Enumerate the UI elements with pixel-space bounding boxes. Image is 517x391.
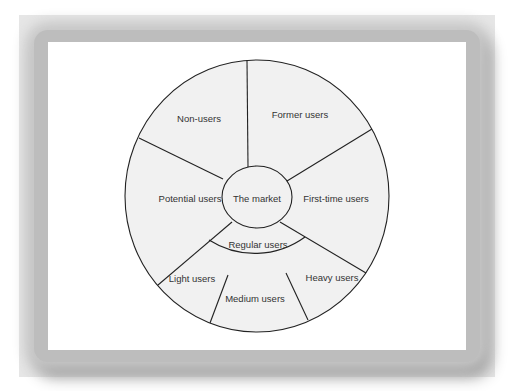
label-medium-users: Medium users [225,293,285,304]
label-former-users: Former users [272,109,329,120]
label-first-time-users: First-time users [303,193,369,204]
label-heavy-users: Heavy users [306,272,359,283]
label-non-users: Non-users [177,113,221,124]
segment-wheel-diagram: Non-users Former users First-time users … [0,0,517,391]
label-the-market: The market [233,193,281,204]
label-potential-users: Potential users [159,193,222,204]
label-light-users: Light users [169,273,216,284]
label-regular-users: Regular users [228,239,287,250]
